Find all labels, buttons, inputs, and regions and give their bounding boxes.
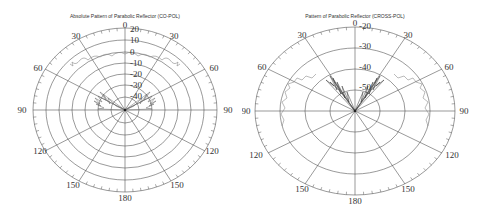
cross-pol-chart-svg: Pattern of Parabolic Reflector (CROSS-PO… bbox=[242, 0, 484, 214]
radial-labels: 20 10 0 -10 -20 -30 -40 bbox=[130, 24, 142, 101]
angle-label-150-right: 150 bbox=[170, 180, 184, 190]
radial-label: 0 bbox=[130, 47, 135, 57]
angle-label-180: 180 bbox=[348, 196, 362, 206]
angle-label-120-right: 120 bbox=[445, 150, 459, 160]
angle-label-60-left: 60 bbox=[258, 62, 268, 72]
angle-label-150-right: 150 bbox=[401, 184, 415, 194]
radial-label: -30 bbox=[359, 41, 371, 51]
angle-label-30-right: 30 bbox=[170, 31, 180, 41]
angle-label-60-left: 60 bbox=[34, 63, 44, 73]
radial-label: -40 bbox=[359, 62, 371, 72]
chart-title: Absolute Pattern of Parabolic Reflector … bbox=[70, 13, 180, 19]
angle-label-30-right: 30 bbox=[404, 30, 414, 40]
angle-label-30-left: 30 bbox=[298, 30, 308, 40]
radial-label: -20 bbox=[130, 69, 142, 79]
angle-label-90-right: 90 bbox=[224, 105, 234, 115]
center-point bbox=[124, 109, 126, 111]
radial-label: -10 bbox=[130, 58, 142, 68]
angle-label-120-left: 120 bbox=[249, 150, 263, 160]
center-point bbox=[354, 110, 356, 112]
radial-label: -50 bbox=[359, 82, 371, 92]
angle-label-90-right: 90 bbox=[460, 106, 470, 116]
radial-label: -20 bbox=[359, 21, 371, 31]
radial-label: -30 bbox=[130, 80, 142, 90]
angle-label-30-left: 30 bbox=[72, 31, 82, 41]
radial-labels: -20 -30 -40 -50 bbox=[359, 21, 371, 92]
angle-label-0: 0 bbox=[353, 18, 358, 28]
co-pol-polar-chart: Absolute Pattern of Parabolic Reflector … bbox=[0, 0, 242, 214]
angle-label-90-left: 90 bbox=[242, 106, 251, 116]
cross-pol-polar-chart: Pattern of Parabolic Reflector (CROSS-PO… bbox=[242, 0, 484, 214]
co-pol-chart-svg: Absolute Pattern of Parabolic Reflector … bbox=[0, 0, 242, 214]
radial-label: 10 bbox=[130, 35, 140, 45]
angle-label-0: 0 bbox=[123, 20, 128, 30]
radial-label: 20 bbox=[130, 24, 140, 34]
angle-label-120-right: 120 bbox=[205, 146, 219, 156]
angle-label-60-right: 60 bbox=[210, 63, 220, 73]
angle-label-150-left: 150 bbox=[295, 184, 309, 194]
angle-label-120-left: 120 bbox=[33, 146, 47, 156]
radial-label: -40 bbox=[130, 91, 142, 101]
angle-label-60-right: 60 bbox=[445, 62, 455, 72]
angle-label-180: 180 bbox=[118, 193, 132, 203]
angle-label-90-left: 90 bbox=[18, 105, 28, 115]
angle-label-150-left: 150 bbox=[66, 180, 80, 190]
